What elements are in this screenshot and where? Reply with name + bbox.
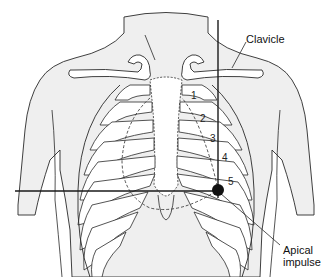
rib-number-3: 3: [210, 134, 216, 144]
rib-number-2: 2: [200, 114, 206, 124]
clavicle-label: Clavicle: [246, 33, 285, 45]
sternum: [150, 77, 182, 196]
rib-number-1: 1: [191, 91, 197, 101]
apical-label-line2: impulse: [283, 256, 321, 268]
apical-impulse-marker: [212, 184, 224, 196]
apical-impulse-label: Apical impulse: [283, 244, 321, 268]
rib-number-4: 4: [222, 153, 228, 163]
rib-number-5: 5: [228, 177, 234, 187]
apical-label-line1: Apical: [283, 244, 321, 256]
